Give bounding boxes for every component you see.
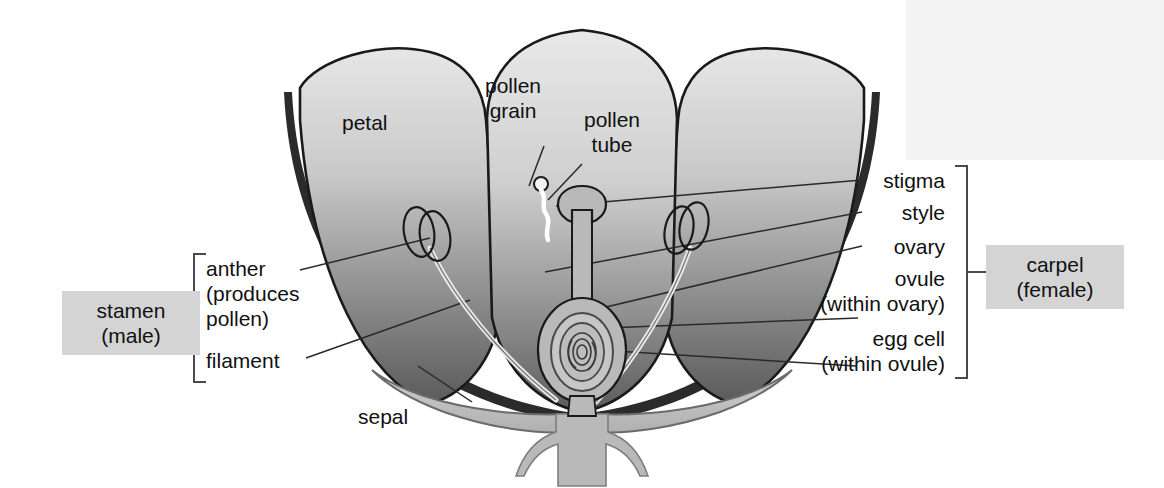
label-petal: petal [342, 110, 388, 135]
label-pollen-tube: pollen tube [560, 107, 664, 157]
ovule-inner [560, 323, 604, 381]
flower-diagram-figure: petal pollen grain pollen tube stigma st… [0, 0, 1164, 488]
label-pollen-grain: pollen grain [458, 73, 568, 123]
label-stigma: stigma [795, 168, 945, 193]
group-box-carpel: carpel (female) [986, 245, 1124, 309]
label-egg-cell: egg cell (within ovule) [760, 326, 945, 376]
label-sepal: sepal [358, 404, 408, 429]
label-ovule: ovule (within ovary) [760, 266, 945, 316]
bracket-carpel [955, 166, 986, 378]
label-anther: anther (produces pollen) [206, 256, 406, 331]
label-filament: filament [206, 348, 406, 373]
flower-diagram-illustration [0, 0, 1164, 488]
group-box-stamen: stamen (male) [62, 291, 200, 355]
label-style: style [795, 200, 945, 225]
ovary-base-neck [568, 396, 596, 416]
label-ovary: ovary [795, 234, 945, 259]
